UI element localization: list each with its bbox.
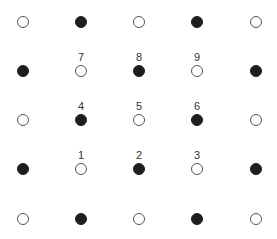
filled-circle-icon [75,16,87,28]
open-circle-icon [250,114,262,126]
filled-circle-icon [250,163,262,175]
filled-circle-icon [191,213,203,225]
open-circle-icon [75,65,87,77]
filled-circle-icon [250,65,262,77]
cell-number-label: 4 [78,101,84,112]
open-circle-icon [191,65,203,77]
cell-number-label: 5 [136,101,142,112]
open-circle-icon [191,163,203,175]
cell-number-label: 2 [136,150,142,161]
cell-number-label: 9 [194,52,200,63]
filled-circle-icon [133,163,145,175]
cell-number-label: 7 [78,52,84,63]
open-circle-icon [17,213,29,225]
open-circle-icon [17,16,29,28]
cell-number-label: 3 [194,150,200,161]
filled-circle-icon [17,65,29,77]
filled-circle-icon [75,213,87,225]
open-circle-icon [133,213,145,225]
cell-number-label: 6 [194,101,200,112]
open-circle-icon [250,213,262,225]
open-circle-icon [17,114,29,126]
open-circle-icon [133,114,145,126]
filled-circle-icon [191,114,203,126]
cell-number-label: 8 [136,52,142,63]
open-circle-icon [75,163,87,175]
cell-number-label: 1 [78,150,84,161]
filled-circle-icon [17,163,29,175]
filled-circle-icon [75,114,87,126]
filled-circle-icon [133,65,145,77]
open-circle-icon [133,16,145,28]
filled-circle-icon [191,16,203,28]
open-circle-icon [250,16,262,28]
